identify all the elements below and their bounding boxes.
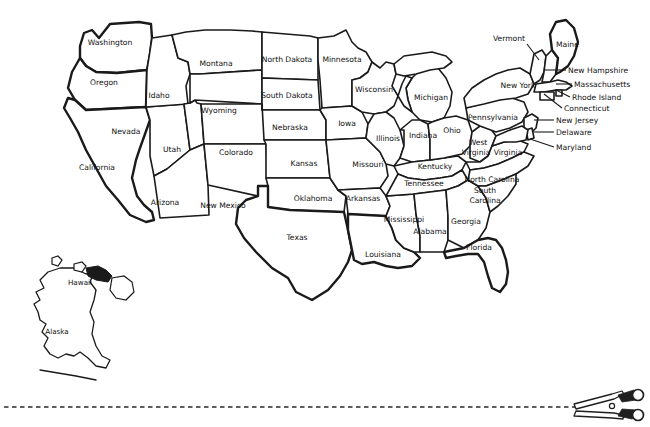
state-label-kentucky: Kentucky [418,162,453,171]
state-label-arizona: Arizona [151,198,180,207]
state-label-arkansas: Arkansas [346,194,381,203]
state-label-west-virginia: West [469,138,488,147]
state-label-michigan: Michigan [414,93,448,102]
state-label-utah: Utah [163,145,181,154]
hawaii-big-island [110,276,134,300]
state-shape-california [64,98,154,222]
state-label-new-mexico: New Mexico [200,201,246,210]
state-label-illinois: Illinois [376,134,400,143]
state-label-north-dakota: North Dakota [262,55,313,64]
leader-line-maryland [530,139,554,147]
state-label-ohio: Ohio [443,126,461,135]
state-label-maryland: Maryland [556,143,591,152]
hawaii-oahu [74,262,86,272]
state-label-new-york: New York [501,81,536,90]
state-label-oklahoma: Oklahoma [294,194,333,203]
state-label-south-dakota: South Dakota [261,91,312,100]
state-label-iowa: Iowa [338,119,356,128]
scissors-blade-upper [574,391,624,409]
state-label-nevada: Nevada [112,127,141,136]
alaska-aleutians [40,370,96,380]
state-shape-washington [80,22,152,73]
state-label-georgia: Georgia [451,217,481,226]
inset-label-hawaii: Hawaii [68,278,92,287]
state-label-missouri: Missouri [352,160,383,169]
scissors-ring-lower [633,410,644,421]
state-shape-wyoming [190,70,262,104]
scissors-pivot [609,403,614,408]
state-label-new-jersey: New Jersey [556,116,599,125]
scissors-icon [574,390,644,421]
state-label-indiana: Indiana [409,131,437,140]
inset-label-alaska: Alaska [45,327,69,336]
cut-here-guide [4,390,644,421]
state-label-montana: Montana [199,59,232,68]
state-label-maine: Maine [556,40,579,49]
scissors-ring-upper [633,390,644,401]
state-label-delaware: Delaware [556,128,592,137]
state-label-rhode-island: Rhode Island [572,93,621,102]
state-label-virginia: Virginia [494,148,523,157]
state-label-connecticut: Connecticut [564,104,609,113]
state-label-texas: Texas [286,233,308,242]
map-canvas: WashingtonOregonCaliforniaIdahoNevadaUta… [0,0,650,427]
state-label-new-hampshire: New Hampshire [568,66,628,75]
state-label-south-carolina-line2: Carolina [469,196,500,205]
scissors-blade-lower [574,411,624,419]
state-label-washington: Washington [88,38,133,47]
state-label-massachusetts: Massachusetts [574,80,630,89]
state-label-tennessee: Tennessee [403,179,444,188]
state-shape-nebraska [262,104,326,140]
state-shape-michigan-up [394,52,452,76]
state-label-kansas: Kansas [291,159,318,168]
state-label-oregon: Oregon [90,78,118,87]
state-label-nebraska: Nebraska [272,123,308,132]
state-label-north-carolina: North Carolina [465,175,520,184]
state-label-alabama: Alabama [413,227,446,236]
state-outlines [64,20,578,300]
state-label-mississippi: Mississippi [384,215,424,224]
state-label-colorado: Colorado [219,148,253,157]
state-label-california: California [79,163,115,172]
state-label-florida: Florida [466,243,492,252]
state-label-pennsylvania: Pennsylvania [468,113,518,122]
state-label-wyoming: Wyoming [201,106,237,115]
state-shape-indiana [400,120,430,162]
state-label-louisiana: Louisiana [365,250,401,259]
state-label-wisconsin: Wisconsin [355,85,393,94]
state-label-west-virginia-line2: Virginia [462,148,491,157]
state-label-minnesota: Minnesota [322,55,361,64]
hawaii-kauai [52,256,62,266]
state-label-south-carolina: South [474,186,496,195]
state-label-vermont: Vermont [493,34,525,43]
state-label-idaho: Idaho [148,91,170,100]
state-shape-massachusetts [534,80,572,92]
us-outline-map: WashingtonOregonCaliforniaIdahoNevadaUta… [0,0,650,427]
